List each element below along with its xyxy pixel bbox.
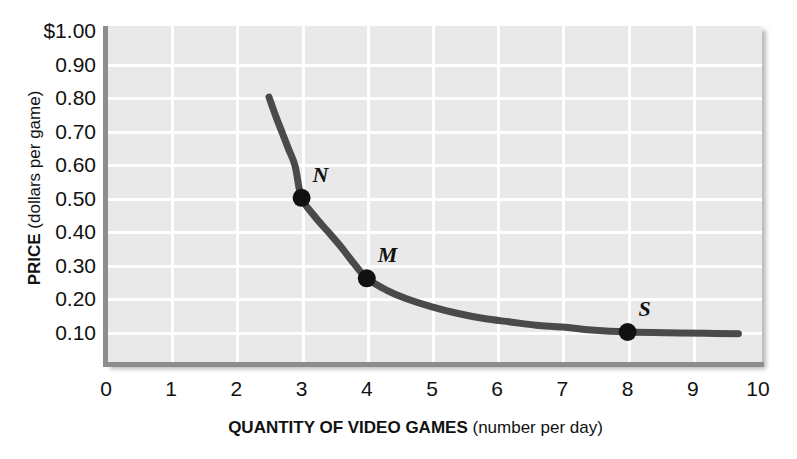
- x-axis-title: QUANTITY OF VIDEO GAMES (number per day): [0, 418, 797, 438]
- y-axis-tick-label: 0.10: [0, 322, 96, 343]
- x-axis-tick-label: 10: [738, 378, 778, 399]
- y-axis-tick-label: 0.50: [0, 188, 96, 209]
- x-axis-tick-label: 5: [412, 378, 452, 399]
- gridline-vertical: [302, 26, 305, 365]
- y-axis-tick-label: 0.30: [0, 255, 96, 276]
- y-axis-tick-label: 0.40: [0, 221, 96, 242]
- x-axis-tick-label: 4: [347, 378, 387, 399]
- x-axis-title-bold: QUANTITY OF VIDEO GAMES: [228, 418, 468, 437]
- plot-area: [106, 26, 762, 365]
- y-axis-title-plain: (dollars per game): [25, 91, 44, 229]
- gridline-vertical: [562, 26, 565, 365]
- gridline-vertical: [497, 26, 500, 365]
- y-axis-tick-label: 0.80: [0, 87, 96, 108]
- gridline-vertical: [432, 26, 435, 365]
- gridline-vertical: [693, 26, 696, 365]
- y-axis-tick-label: $1.00: [0, 20, 96, 41]
- gridline-vertical: [171, 26, 174, 365]
- data-point-label-n: N: [313, 164, 329, 186]
- y-axis-title-bold: PRICE: [25, 233, 44, 285]
- x-axis-tick-label: 3: [282, 378, 322, 399]
- x-axis-spine: [103, 362, 764, 367]
- y-axis-tick-label: 0.60: [0, 154, 96, 175]
- x-axis-title-plain: (number per day): [472, 418, 602, 437]
- y-axis-tick-labels: $1.000.900.800.700.600.500.400.300.200.1…: [0, 0, 96, 459]
- data-point-label-m: M: [378, 244, 398, 266]
- x-axis-tick-label: 2: [216, 378, 256, 399]
- y-axis-title-space: [25, 229, 44, 234]
- y-axis-tick-label: 0.70: [0, 121, 96, 142]
- gridline-vertical: [367, 26, 370, 365]
- gridline-vertical: [236, 26, 239, 365]
- y-axis-tick-label: 0.90: [0, 54, 96, 75]
- x-axis-tick-label: 6: [477, 378, 517, 399]
- x-axis-tick-label: 8: [608, 378, 648, 399]
- x-axis-tick-label: 9: [673, 378, 713, 399]
- y-axis-tick-label: 0.20: [0, 288, 96, 309]
- demand-curve-chart: $1.000.900.800.700.600.500.400.300.200.1…: [0, 0, 797, 459]
- x-axis-tick-label: 7: [542, 378, 582, 399]
- y-axis-title: PRICE (dollars per game): [25, 58, 45, 318]
- x-axis-tick-label: 1: [151, 378, 191, 399]
- y-axis-spine: [103, 26, 108, 367]
- gridline-vertical: [628, 26, 631, 365]
- data-point-label-s: S: [639, 298, 651, 320]
